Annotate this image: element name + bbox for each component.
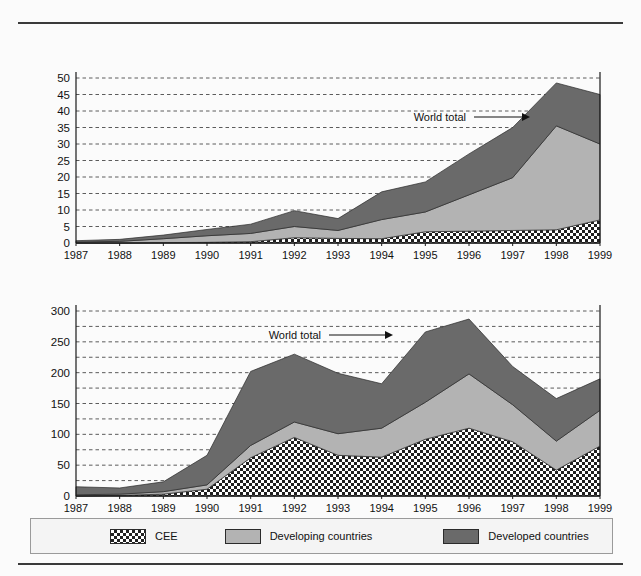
x-tick-label: 1999 xyxy=(588,502,612,514)
annotation-world-total: World total xyxy=(414,111,466,123)
x-tick-label: 1993 xyxy=(326,502,350,514)
y-tick-label: 300 xyxy=(51,305,70,317)
x-tick-label: 1996 xyxy=(457,502,481,514)
y-tick-label: 45 xyxy=(57,89,70,101)
x-tick-label: 1997 xyxy=(500,249,524,261)
x-tick-label: 1991 xyxy=(238,249,262,261)
x-tick-label: 1990 xyxy=(195,502,219,514)
legend-label-developing: Developing countries xyxy=(270,530,373,542)
y-tick-label: 150 xyxy=(51,398,70,410)
legend-row: CEE Developing countries Developed count… xyxy=(31,519,612,553)
x-tick-label: 1998 xyxy=(544,502,568,514)
x-tick-label: 1998 xyxy=(544,249,568,261)
x-tick-label: 1990 xyxy=(195,249,219,261)
y-tick-label: 15 xyxy=(57,188,70,200)
x-tick-label: 1989 xyxy=(151,502,175,514)
legend: CEE Developing countries Developed count… xyxy=(30,518,613,554)
x-tick-label: 1987 xyxy=(64,249,88,261)
x-tick-label: 1994 xyxy=(369,249,393,261)
legend-item-developed: Developed countries xyxy=(443,529,588,544)
x-tick-label: 1996 xyxy=(457,249,481,261)
x-tick-label: 1992 xyxy=(282,249,306,261)
panel-a-plot-area: 0510152025303540455019871988198919901991… xyxy=(0,26,641,276)
panel-a: (a) Transaction values (billion dollars)… xyxy=(0,26,641,276)
x-tick-label: 1997 xyxy=(500,502,524,514)
x-tick-label: 1995 xyxy=(413,502,437,514)
bottom-divider-rule xyxy=(18,563,623,565)
y-tick-label: 10 xyxy=(57,204,70,216)
panel-a-svg: 0510152025303540455019871988198919901991… xyxy=(0,26,641,276)
x-tick-label: 1989 xyxy=(151,249,175,261)
x-tick-label: 1988 xyxy=(107,249,131,261)
legend-swatch-developed-icon xyxy=(443,529,479,544)
annotation-world-total: World total xyxy=(269,329,321,341)
panel-b: (b) Number of deals 05010015020025030019… xyxy=(0,276,641,516)
panel-b-svg: 0501001502002503001987198819891990199119… xyxy=(0,276,641,516)
y-tick-label: 35 xyxy=(57,122,70,134)
y-tick-label: 50 xyxy=(57,72,70,84)
x-tick-label: 1988 xyxy=(107,502,131,514)
y-tick-label: 30 xyxy=(57,138,70,150)
x-tick-label: 1993 xyxy=(326,249,350,261)
legend-swatch-cee-icon xyxy=(110,529,146,544)
y-tick-label: 0 xyxy=(64,490,70,502)
x-tick-label: 1987 xyxy=(64,502,88,514)
y-tick-label: 50 xyxy=(57,459,70,471)
x-tick-label: 1992 xyxy=(282,502,306,514)
top-divider-rule xyxy=(18,22,623,24)
x-tick-label: 1994 xyxy=(369,502,393,514)
y-tick-label: 200 xyxy=(51,367,70,379)
y-tick-label: 250 xyxy=(51,336,70,348)
y-tick-label: 40 xyxy=(57,105,70,117)
y-tick-label: 20 xyxy=(57,171,70,183)
x-tick-label: 1991 xyxy=(238,502,262,514)
legend-swatch-developing-icon xyxy=(225,529,261,544)
y-tick-label: 5 xyxy=(64,221,70,233)
y-tick-label: 0 xyxy=(64,237,70,249)
y-tick-label: 25 xyxy=(57,155,70,167)
legend-label-developed: Developed countries xyxy=(488,530,588,542)
legend-item-developing: Developing countries xyxy=(225,529,373,544)
y-tick-label: 100 xyxy=(51,428,70,440)
panel-b-plot-area: 0501001502002503001987198819891990199119… xyxy=(0,276,641,516)
legend-label-cee: CEE xyxy=(155,530,178,542)
x-tick-label: 1995 xyxy=(413,249,437,261)
figure-page: (a) Transaction values (billion dollars)… xyxy=(0,0,641,576)
legend-item-cee: CEE xyxy=(110,529,178,544)
x-tick-label: 1999 xyxy=(588,249,612,261)
